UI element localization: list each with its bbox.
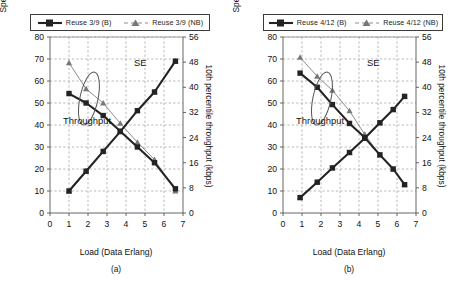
panel-caption-a: (a) bbox=[0, 264, 232, 274]
legend-marker-triangle-icon bbox=[123, 18, 149, 28]
svg-text:24: 24 bbox=[189, 133, 199, 143]
svg-text:0: 0 bbox=[39, 208, 44, 218]
svg-text:56: 56 bbox=[422, 33, 432, 42]
svg-text:0: 0 bbox=[281, 219, 286, 229]
svg-text:24: 24 bbox=[422, 133, 432, 143]
svg-text:0: 0 bbox=[272, 208, 277, 218]
svg-text:7: 7 bbox=[181, 219, 186, 229]
legend-marker-triangle-icon bbox=[354, 18, 380, 28]
chart-panel-a: Reuse 3/9 (B) Reuse 3/9 (NB) Spectrum ef… bbox=[0, 0, 232, 283]
annotation-throughput: Throughput bbox=[296, 115, 344, 126]
svg-text:2: 2 bbox=[319, 219, 324, 229]
x-axis-title: Load (Data Erlang) bbox=[0, 247, 232, 257]
svg-text:80: 80 bbox=[34, 33, 44, 42]
panel-caption-b: (b) bbox=[233, 264, 465, 274]
plot-area-b: 010203040506070800816243240485601234567S… bbox=[233, 33, 465, 215]
svg-text:32: 32 bbox=[189, 107, 199, 117]
svg-text:56: 56 bbox=[189, 33, 199, 42]
svg-text:8: 8 bbox=[422, 183, 427, 193]
chart-panel-b: Reuse 4/12 (B) Reuse 4/12 (NB) Spectrum … bbox=[233, 0, 465, 283]
svg-text:5: 5 bbox=[376, 219, 381, 229]
svg-text:16: 16 bbox=[189, 158, 199, 168]
legend-label-nb: Reuse 4/12 (NB) bbox=[383, 18, 438, 27]
svg-text:50: 50 bbox=[34, 98, 44, 108]
svg-text:20: 20 bbox=[267, 164, 277, 174]
legend-entry-b: Reuse 3/9 (B) bbox=[37, 18, 112, 28]
svg-text:0: 0 bbox=[422, 208, 427, 218]
svg-text:80: 80 bbox=[267, 33, 277, 42]
svg-text:4: 4 bbox=[357, 219, 362, 229]
legend-panel-b: Reuse 4/12 (B) Reuse 4/12 (NB) bbox=[263, 14, 443, 31]
svg-text:40: 40 bbox=[267, 120, 277, 130]
svg-text:7: 7 bbox=[414, 219, 419, 229]
plot-svg-a: 010203040506070800816243240485601234567S… bbox=[0, 33, 232, 248]
annotation-se: SE bbox=[134, 57, 147, 68]
svg-text:32: 32 bbox=[422, 107, 432, 117]
svg-text:5: 5 bbox=[143, 219, 148, 229]
svg-text:48: 48 bbox=[189, 57, 199, 67]
svg-text:1: 1 bbox=[300, 219, 305, 229]
svg-text:2: 2 bbox=[86, 219, 91, 229]
legend-label-b: Reuse 3/9 (B) bbox=[66, 18, 112, 27]
svg-text:60: 60 bbox=[267, 76, 277, 86]
svg-text:3: 3 bbox=[105, 219, 110, 229]
svg-text:8: 8 bbox=[189, 183, 194, 193]
svg-text:40: 40 bbox=[422, 82, 432, 92]
svg-text:60: 60 bbox=[34, 76, 44, 86]
svg-text:70: 70 bbox=[34, 54, 44, 64]
svg-text:30: 30 bbox=[34, 142, 44, 152]
legend-entry-b: Reuse 4/12 (B) bbox=[268, 18, 347, 28]
plot-area-a: 010203040506070800816243240485601234567S… bbox=[0, 33, 232, 215]
y-axis-title-left: Spectrum efficiency (kbps/cell/MHz) bbox=[231, 0, 243, 36]
figure-container: Reuse 3/9 (B) Reuse 3/9 (NB) Spectrum ef… bbox=[0, 0, 465, 283]
svg-text:0: 0 bbox=[189, 208, 194, 218]
svg-text:6: 6 bbox=[395, 219, 400, 229]
annotation-se: SE bbox=[367, 57, 380, 68]
svg-text:40: 40 bbox=[189, 82, 199, 92]
legend-label-nb: Reuse 3/9 (NB) bbox=[152, 18, 203, 27]
svg-text:30: 30 bbox=[267, 142, 277, 152]
annotation-throughput: Throughput bbox=[63, 115, 111, 126]
svg-text:0: 0 bbox=[48, 219, 53, 229]
legend-marker-square-icon bbox=[37, 18, 63, 28]
svg-text:10: 10 bbox=[34, 186, 44, 196]
svg-text:3: 3 bbox=[338, 219, 343, 229]
svg-text:50: 50 bbox=[267, 98, 277, 108]
svg-text:16: 16 bbox=[422, 158, 432, 168]
svg-text:4: 4 bbox=[124, 219, 129, 229]
x-axis-title: Load (Data Erlang) bbox=[233, 247, 465, 257]
svg-text:6: 6 bbox=[162, 219, 167, 229]
svg-text:70: 70 bbox=[267, 54, 277, 64]
legend-label-b: Reuse 4/12 (B) bbox=[297, 18, 347, 27]
legend-entry-nb: Reuse 4/12 (NB) bbox=[354, 18, 438, 28]
svg-text:48: 48 bbox=[422, 57, 432, 67]
plot-svg-b: 010203040506070800816243240485601234567S… bbox=[233, 33, 465, 248]
svg-text:10: 10 bbox=[267, 186, 277, 196]
legend-panel-a: Reuse 3/9 (B) Reuse 3/9 (NB) bbox=[30, 14, 210, 31]
legend-marker-square-icon bbox=[268, 18, 294, 28]
svg-text:1: 1 bbox=[67, 219, 72, 229]
y-axis-title-left: Spectrum efficiency (kbps/cell/MHz) bbox=[0, 0, 10, 36]
legend-entry-nb: Reuse 3/9 (NB) bbox=[123, 18, 203, 28]
svg-text:40: 40 bbox=[34, 120, 44, 130]
svg-text:20: 20 bbox=[34, 164, 44, 174]
